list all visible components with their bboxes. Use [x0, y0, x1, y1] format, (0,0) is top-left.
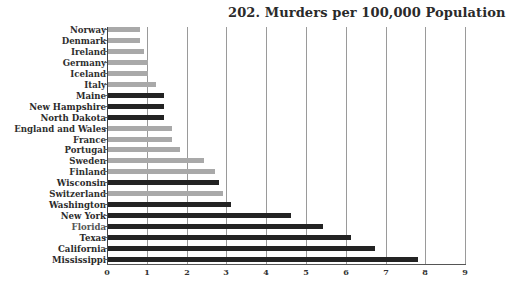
category-label: Mississippi	[52, 255, 106, 265]
bar-texas	[108, 235, 351, 240]
y-tick	[104, 182, 107, 183]
x-tick-label: 0	[101, 267, 113, 277]
y-tick	[104, 106, 107, 107]
x-tick-label: 2	[181, 267, 193, 277]
y-tick	[104, 149, 107, 150]
bar-portugal	[108, 147, 180, 152]
y-tick	[104, 95, 107, 96]
y-tick	[104, 259, 107, 260]
bar-north-dakota	[108, 115, 164, 120]
bar-florida	[108, 224, 323, 229]
y-tick	[104, 139, 107, 140]
category-label: Texas	[80, 233, 106, 243]
x-tick-label: 5	[300, 267, 312, 277]
x-tick-label: 9	[459, 267, 471, 277]
category-label: Ireland	[71, 47, 106, 57]
x-tick-label: 6	[340, 267, 352, 277]
bar-wisconsin	[108, 180, 219, 185]
bar-iceland	[108, 71, 148, 76]
gridline-6	[346, 27, 347, 264]
category-label: Iceland	[70, 69, 106, 79]
bar-norway	[108, 27, 140, 32]
y-tick	[104, 226, 107, 227]
x-tick-label: 7	[380, 267, 392, 277]
category-label: North Dakota	[40, 113, 106, 123]
y-tick	[104, 117, 107, 118]
bar-new-hampshire	[108, 104, 164, 109]
y-tick	[104, 171, 107, 172]
bar-maine	[108, 93, 164, 98]
category-label: Wisconsin	[57, 178, 106, 188]
bar-washington	[108, 202, 231, 207]
gridline-7	[386, 27, 387, 264]
x-tick-label: 3	[220, 267, 232, 277]
y-tick	[104, 128, 107, 129]
bar-switzerland	[108, 191, 223, 196]
x-tick-label: 1	[141, 267, 153, 277]
y-tick	[104, 29, 107, 30]
bar-france	[108, 137, 172, 142]
category-label: Finland	[69, 167, 106, 177]
y-tick	[104, 40, 107, 41]
y-tick	[104, 73, 107, 74]
gridline-8	[425, 27, 426, 264]
category-label: Maine	[76, 91, 106, 101]
category-label: New Hampshire	[29, 102, 106, 112]
category-label: England and Wales	[14, 124, 106, 134]
category-label: Florida	[72, 222, 106, 232]
category-label: Portugal	[64, 145, 106, 155]
y-tick	[104, 248, 107, 249]
y-tick	[104, 84, 107, 85]
bar-california	[108, 246, 375, 251]
y-tick	[104, 160, 107, 161]
gridline-9	[465, 27, 466, 264]
category-label: New York	[61, 211, 106, 221]
bar-ireland	[108, 49, 144, 54]
category-label: Denmark	[62, 36, 106, 46]
bar-sweden	[108, 158, 204, 163]
category-label: Switzerland	[49, 189, 106, 199]
bar-denmark	[108, 38, 140, 43]
x-tick-label: 4	[260, 267, 272, 277]
category-label: California	[58, 244, 106, 254]
bar-italy	[108, 82, 156, 87]
y-tick	[104, 215, 107, 216]
x-axis-line	[107, 264, 466, 265]
y-tick	[104, 193, 107, 194]
category-label: Italy	[84, 80, 106, 90]
bar-new-york	[108, 213, 291, 218]
bar-mississippi	[108, 257, 418, 262]
category-label: France	[73, 135, 106, 145]
bar-england-and-wales	[108, 126, 172, 131]
category-label: Washington	[49, 200, 106, 210]
y-tick	[104, 237, 107, 238]
category-label: Germany	[63, 58, 106, 68]
category-label: Sweden	[69, 156, 106, 166]
category-label: Norway	[70, 25, 106, 35]
x-tick-label: 8	[419, 267, 431, 277]
y-tick	[104, 62, 107, 63]
bar-finland	[108, 169, 215, 174]
y-tick	[104, 204, 107, 205]
bar-germany	[108, 60, 148, 65]
y-tick	[104, 51, 107, 52]
